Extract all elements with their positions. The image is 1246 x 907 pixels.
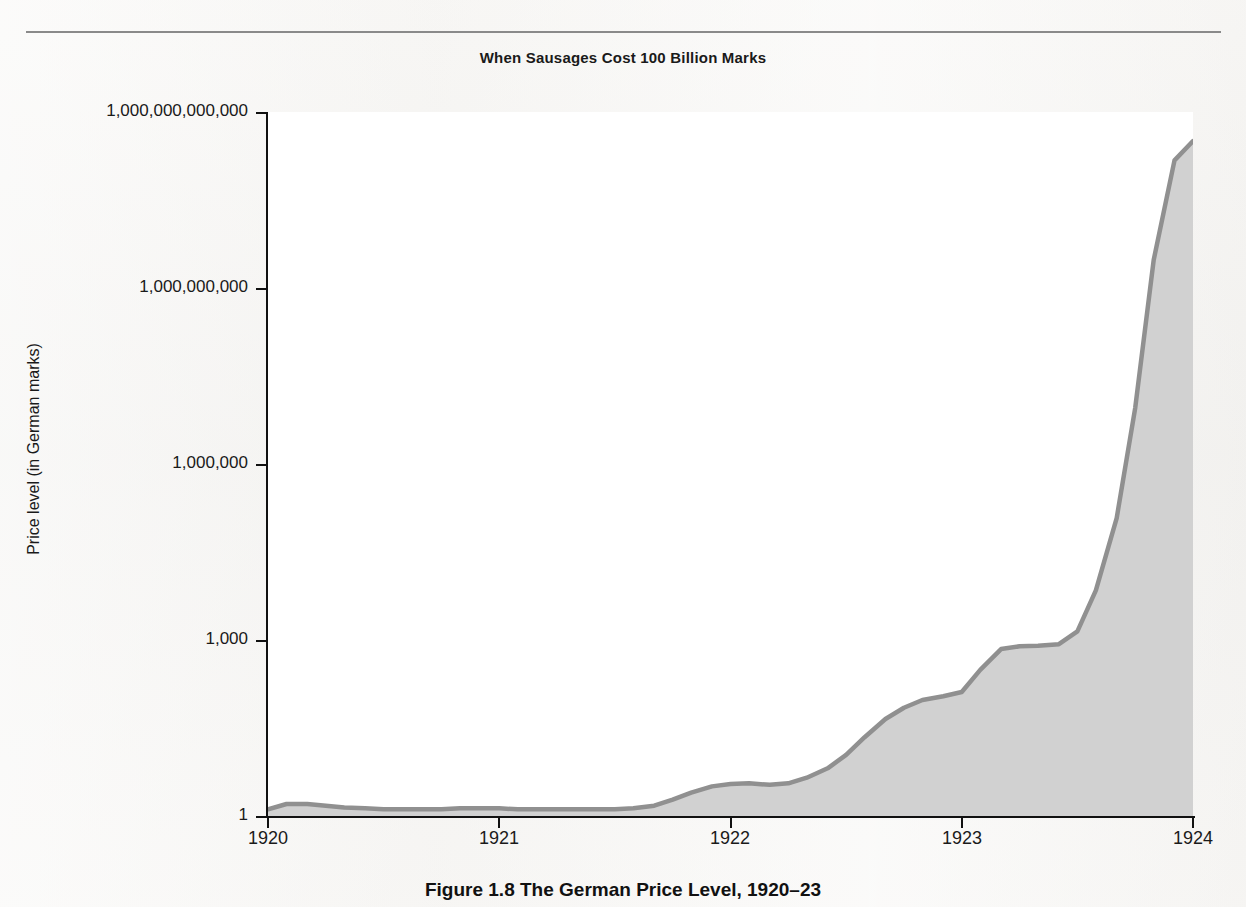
x-tick-mark-1924 bbox=[1192, 818, 1194, 828]
y-tick-label-wrap-1: 1 bbox=[0, 805, 248, 827]
figure-german-price-level: When Sausages Cost 100 Billion Marks Pri… bbox=[0, 0, 1246, 907]
y-tick-label-1e12: 1,000,000,000,000 bbox=[0, 101, 248, 121]
x-tick-mark-1922 bbox=[730, 818, 732, 828]
area-chart-plot bbox=[268, 112, 1193, 816]
y-tick-mark-1e6 bbox=[256, 464, 266, 466]
y-tick-label-wrap-1e12: 1,000,000,000,000 bbox=[0, 101, 248, 123]
y-tick-label-1e9: 1,000,000,000 bbox=[0, 277, 248, 297]
y-tick-mark-1e9 bbox=[256, 288, 266, 290]
chart-title: When Sausages Cost 100 Billion Marks bbox=[0, 49, 1246, 66]
y-tick-label-wrap-1e9: 1,000,000,000 bbox=[0, 277, 248, 299]
x-tick-mark-1923 bbox=[961, 818, 963, 828]
y-tick-label-1e6: 1,000,000 bbox=[0, 453, 248, 473]
y-tick-mark-1 bbox=[256, 816, 266, 818]
x-tick-mark-1921 bbox=[498, 818, 500, 828]
x-tick-label-1922: 1922 bbox=[670, 828, 790, 849]
y-axis-line bbox=[266, 112, 268, 818]
x-tick-label-1921: 1921 bbox=[439, 828, 559, 849]
y-tick-label-1e3: 1,000 bbox=[0, 629, 248, 649]
y-tick-label-1: 1 bbox=[0, 805, 248, 825]
x-tick-label-1924: 1924 bbox=[1133, 828, 1246, 849]
x-tick-mark-1920 bbox=[267, 818, 269, 828]
y-axis-title: Price level (in German marks) bbox=[25, 279, 43, 619]
y-tick-mark-1e12 bbox=[256, 112, 266, 114]
figure-caption: Figure 1.8 The German Price Level, 1920–… bbox=[0, 879, 1246, 901]
y-tick-label-wrap-1e3: 1,000 bbox=[0, 629, 248, 651]
page-canvas: When Sausages Cost 100 Billion Marks Pri… bbox=[0, 0, 1246, 907]
x-tick-label-1920: 1920 bbox=[208, 828, 328, 849]
y-tick-label-wrap-1e6: 1,000,000 bbox=[0, 453, 248, 475]
x-tick-label-1923: 1923 bbox=[902, 828, 1022, 849]
y-tick-mark-1e3 bbox=[256, 640, 266, 642]
price-level-area-fill bbox=[268, 141, 1193, 816]
plot-area bbox=[268, 112, 1193, 816]
